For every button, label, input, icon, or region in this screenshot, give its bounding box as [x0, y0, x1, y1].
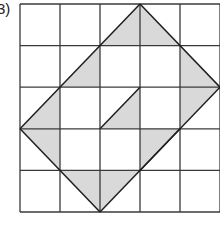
shaded-grid-figure: [0, 0, 220, 228]
